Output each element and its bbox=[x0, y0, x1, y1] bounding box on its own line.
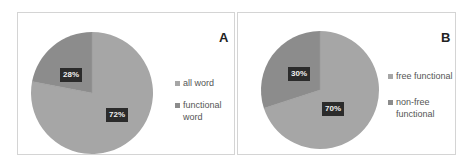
data-label-72: 72% bbox=[106, 108, 128, 122]
legend-label: functional word bbox=[183, 99, 235, 123]
data-label-70: 70% bbox=[322, 102, 344, 116]
panel-letter-b: B bbox=[441, 30, 450, 45]
chart-panel-a: A 28% 72% all word functional word bbox=[17, 12, 235, 155]
data-label-28: 28% bbox=[60, 68, 82, 82]
legend-label: non-free functional bbox=[396, 96, 456, 120]
legend-item: functional word bbox=[175, 99, 235, 123]
chart-panel-b: B 30% 70% free functional non-free funct… bbox=[237, 12, 456, 155]
panel-letter-a: A bbox=[219, 30, 228, 45]
legend-label: all word bbox=[183, 77, 214, 89]
legend-item: non-free functional bbox=[388, 96, 456, 120]
legend-a: all word functional word bbox=[175, 77, 235, 133]
data-label-30: 30% bbox=[288, 67, 310, 81]
legend-item: free functional bbox=[388, 70, 456, 82]
legend-item: all word bbox=[175, 77, 235, 89]
legend-swatch-icon bbox=[175, 103, 180, 108]
legend-swatch-icon bbox=[175, 81, 180, 86]
legend-swatch-icon bbox=[388, 74, 393, 79]
legend-b: free functional non-free functional bbox=[388, 70, 456, 130]
legend-label: free functional bbox=[396, 70, 453, 82]
legend-swatch-icon bbox=[388, 100, 393, 105]
